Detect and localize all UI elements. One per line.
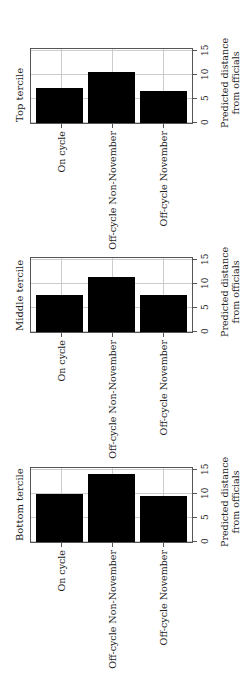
- tick-label: 5: [200, 304, 210, 310]
- value-axis-label: Predicted distancefrom officials: [219, 38, 241, 128]
- category-tick: [163, 543, 164, 547]
- category-label: Off-cycle November: [158, 550, 169, 645]
- bar: [36, 494, 83, 542]
- chart-panel: 051015Middle tercilePredicted distancefr…: [0, 209, 249, 439]
- panel-title: Bottom tercile: [14, 468, 25, 541]
- tick-label: 5: [200, 95, 210, 101]
- axis-tick: [193, 307, 197, 308]
- axis-tick: [193, 74, 197, 75]
- tick-label: 0: [200, 538, 210, 544]
- tick-label: 0: [200, 328, 210, 334]
- axis-label-line: from officials: [230, 247, 241, 337]
- axis-tick: [193, 331, 197, 332]
- axis-tick: [193, 493, 197, 494]
- value-axis-label: Predicted distancefrom officials: [219, 247, 241, 337]
- tick-label: 10: [200, 68, 210, 79]
- tick-label: 15: [200, 253, 210, 264]
- axis-tick: [193, 259, 197, 260]
- axis-label-line: from officials: [230, 38, 241, 128]
- category-tick: [112, 543, 113, 547]
- tick-label: 0: [200, 119, 210, 125]
- axis-tick: [193, 469, 197, 470]
- chart-panel: 051015Top tercilePredicted distancefrom …: [0, 0, 249, 230]
- category-label: On cycle: [56, 550, 67, 592]
- category-tick: [163, 333, 164, 337]
- value-axis-label: Predicted distancefrom officials: [219, 457, 241, 547]
- bar: [140, 496, 187, 542]
- category-label: On cycle: [56, 131, 67, 173]
- axis-tick: [193, 98, 197, 99]
- tick-label: 10: [200, 277, 210, 288]
- bar: [140, 91, 187, 123]
- tick-label: 15: [200, 44, 210, 55]
- tick-label: 10: [200, 487, 210, 498]
- axis-label-line: Predicted distance: [219, 457, 230, 547]
- tick-label: 5: [200, 514, 210, 520]
- panel-title: Middle tercile: [14, 260, 25, 331]
- axis-label-line: from officials: [230, 457, 241, 547]
- category-label: On cycle: [56, 340, 67, 382]
- bar: [140, 295, 187, 332]
- chart-panel: 051015Bottom tercilePredicted distancefr…: [0, 419, 249, 649]
- bar: [88, 277, 135, 332]
- bar: [88, 474, 135, 542]
- category-tick: [61, 543, 62, 547]
- tick-label: 15: [200, 463, 210, 474]
- axis-label-line: Predicted distance: [219, 38, 230, 128]
- axis-label-line: Predicted distance: [219, 247, 230, 337]
- category-label: Off-cycle Non-November: [107, 550, 118, 669]
- axis-tick: [193, 541, 197, 542]
- axis-tick: [193, 122, 197, 123]
- axis-tick: [193, 50, 197, 51]
- axis-tick: [193, 283, 197, 284]
- axis-tick: [193, 517, 197, 518]
- category-tick: [112, 124, 113, 128]
- bar: [36, 88, 83, 123]
- category-tick: [112, 333, 113, 337]
- bar: [88, 72, 135, 123]
- category-tick: [61, 333, 62, 337]
- panel-title: Top tercile: [14, 68, 25, 122]
- category-tick: [163, 124, 164, 128]
- category-tick: [61, 124, 62, 128]
- bar: [36, 295, 83, 332]
